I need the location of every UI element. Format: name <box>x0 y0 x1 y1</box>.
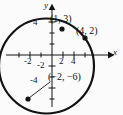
point-marker-4-2 <box>82 35 87 40</box>
point-label-m2-m6: (−2, −6) <box>48 72 81 82</box>
point-label-1-3: (1, 3) <box>50 14 72 24</box>
x-tick-label-2: 2 <box>59 57 64 66</box>
y-tick-label-4: 4 <box>33 18 38 27</box>
x-tick-label-4: 4 <box>71 57 76 66</box>
point-label-4-2: (4, 2) <box>76 26 98 36</box>
point-marker-1-3 <box>59 26 64 31</box>
coordinate-plane-figure: 4 -2 -4 -2 2 4 x y (1, 3) (4, 2) (−2, −6… <box>0 0 123 115</box>
y-tick-label-neg-2: -2 <box>37 61 45 70</box>
x-tick-label-neg-2: -2 <box>24 57 32 66</box>
y-axis-label: y <box>44 1 48 10</box>
point-marker-m2-m6 <box>25 96 30 101</box>
x-axis-label: x <box>113 48 117 57</box>
y-tick-label-neg-4: -4 <box>30 76 38 85</box>
